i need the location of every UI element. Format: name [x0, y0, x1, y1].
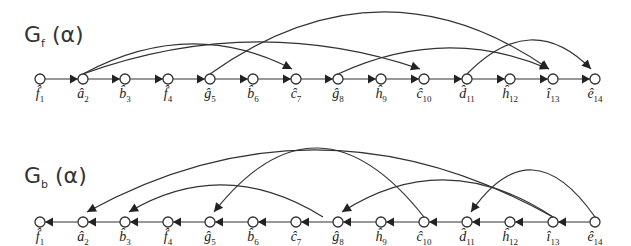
title-main: G — [24, 163, 41, 188]
arrowhead-icon — [283, 75, 291, 84]
node-label: ĥ9 — [375, 86, 387, 104]
node-label: f̂4 — [164, 229, 172, 246]
node-label-index: 6 — [254, 237, 259, 246]
arc-edge-e14-d11 — [471, 170, 595, 217]
arc-edge-a2-c10 — [83, 42, 420, 74]
arrowhead-icon — [173, 218, 181, 227]
node-label-index: 12 — [509, 94, 518, 104]
arrowhead-icon — [45, 218, 53, 227]
node-label: â2 — [77, 229, 89, 246]
node-label: ĥ12 — [502, 229, 518, 246]
node-label: b̂6 — [247, 86, 259, 104]
node-label-index: 1 — [40, 237, 45, 246]
title-argument: (α) — [45, 22, 84, 47]
graph-node — [376, 74, 386, 84]
node-label-index: 5 — [211, 237, 216, 246]
graph-node — [35, 217, 45, 227]
arc-edge-g5-i13 — [210, 12, 549, 74]
node-label-index: 7 — [297, 237, 302, 246]
node-label-index: 4 — [168, 94, 173, 104]
node-label: ĝ5 — [204, 86, 216, 104]
node-label-letter: b̂ — [247, 229, 254, 244]
node-label-letter: d̂ — [459, 86, 466, 101]
node-label-letter: d̂ — [459, 229, 466, 244]
graph-node — [505, 74, 515, 84]
arrowhead-icon — [558, 218, 566, 227]
node-label-letter: ĥ — [375, 229, 382, 244]
node-label: ĥ9 — [375, 229, 387, 246]
node-label-index: 1 — [40, 94, 45, 104]
node-label-index: 9 — [382, 237, 387, 246]
node-label: b̂6 — [247, 229, 259, 246]
arc-edge-i13-a2 — [87, 150, 553, 217]
arrowhead-icon — [343, 218, 351, 227]
node-label-letter: â — [77, 229, 84, 244]
node-label-letter: â — [77, 86, 84, 101]
graph-node — [205, 217, 215, 227]
graph-node — [462, 217, 472, 227]
arc-edge-g8-b3 — [129, 185, 323, 217]
graph-node — [35, 74, 45, 84]
node-label: ê14 — [587, 86, 602, 104]
arrowhead-icon — [215, 218, 223, 227]
node-label-letter: b̂ — [119, 86, 126, 101]
graph-node — [291, 74, 301, 84]
graph-node — [205, 74, 215, 84]
arrowhead-icon — [342, 203, 352, 212]
node-label-index: 10 — [423, 237, 432, 246]
node-label: b̂3 — [119, 229, 131, 246]
arrowhead-icon — [240, 75, 248, 84]
graph-title-backward: Gb (α) — [24, 163, 87, 191]
graph-node — [333, 74, 343, 84]
arrowhead-icon — [540, 75, 548, 84]
node-label: ĝ8 — [332, 86, 344, 104]
arrowhead-icon — [70, 75, 78, 84]
graph-node — [419, 217, 429, 227]
arc-edge-c10-g5 — [214, 148, 424, 217]
node-label-letter: ĝ — [204, 86, 211, 101]
node-label: â2 — [77, 86, 89, 104]
graph-node — [462, 74, 472, 84]
node-label-index: 11 — [466, 237, 475, 246]
node-label-index: 4 — [168, 237, 173, 246]
title-subscript: b — [41, 178, 48, 191]
node-label-index: 3 — [126, 94, 131, 104]
node-label: ĉ7 — [291, 86, 302, 104]
arrowhead-icon — [429, 218, 437, 227]
arrowhead-icon — [325, 75, 333, 84]
node-label: î13 — [547, 86, 560, 104]
node-label-letter: ĥ — [502, 229, 509, 244]
node-label-index: 8 — [339, 237, 344, 246]
node-label: î13 — [547, 229, 560, 246]
node-label-index: 3 — [126, 237, 131, 246]
graph-canvas — [0, 0, 631, 246]
node-label: ĉ7 — [291, 229, 302, 246]
arrowhead-icon — [88, 218, 96, 227]
arrowhead-icon — [471, 202, 480, 212]
node-label: f̂4 — [164, 86, 172, 104]
arrowhead-icon — [454, 75, 462, 84]
node-label-index: 2 — [84, 237, 89, 246]
arc-edge-g8-i13 — [338, 48, 549, 74]
node-label-letter: ĝ — [204, 229, 211, 244]
node-label: d̂11 — [459, 86, 475, 104]
graph-node — [291, 217, 301, 227]
graph-node — [248, 74, 258, 84]
graph-node — [163, 74, 173, 84]
node-label: b̂3 — [119, 86, 131, 104]
node-label-letter: b̂ — [119, 229, 126, 244]
node-label-index: 13 — [550, 94, 559, 104]
node-label: ĝ5 — [204, 229, 216, 246]
graph-node — [505, 217, 515, 227]
node-label: ĝ8 — [332, 229, 344, 246]
arrowhead-icon — [582, 75, 590, 84]
node-label: f̂1 — [36, 86, 44, 104]
node-label: ê14 — [587, 229, 602, 246]
node-label: ĉ10 — [416, 86, 431, 104]
arrowhead-icon — [301, 218, 309, 227]
node-label: ĥ12 — [502, 86, 518, 104]
arrowhead-icon — [472, 218, 480, 227]
graph-node — [590, 217, 600, 227]
node-label-letter: ĥ — [502, 86, 509, 101]
graph-node — [248, 217, 258, 227]
